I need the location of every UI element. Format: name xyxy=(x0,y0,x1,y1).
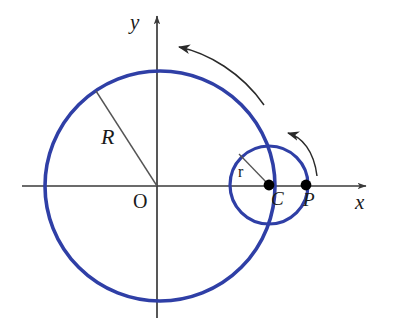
geometry-figure: y x O C P R r xyxy=(0,0,394,332)
point-C-label: C xyxy=(271,188,284,210)
radius-R-label: R xyxy=(101,124,114,150)
x-axis-label: x xyxy=(355,190,364,215)
point-P-label: P xyxy=(303,189,315,211)
axes-group xyxy=(22,16,366,318)
origin-label: O xyxy=(133,190,147,213)
diagram-canvas xyxy=(0,0,394,332)
y-axis-label: y xyxy=(130,10,139,35)
radius-r-line xyxy=(239,154,269,185)
radius-r-label: r xyxy=(238,163,243,181)
